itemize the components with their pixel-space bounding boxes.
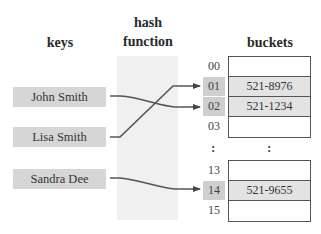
mapping-arrows (0, 0, 321, 234)
arrow-john-smith-to-02 (110, 96, 200, 107)
arrow-sandra-dee-to-14 (110, 178, 200, 189)
arrow-lisa-smith-to-01 (110, 86, 200, 137)
